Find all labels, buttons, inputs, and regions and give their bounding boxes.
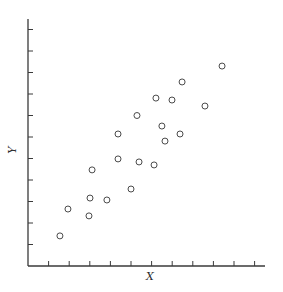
data-points: [57, 63, 225, 239]
data-point: [87, 195, 93, 201]
scatter-plot: X Y: [0, 0, 283, 292]
data-point: [104, 197, 110, 203]
data-point: [89, 167, 95, 173]
data-point: [115, 131, 121, 137]
data-point: [151, 162, 157, 168]
data-point: [179, 79, 185, 85]
data-point: [159, 123, 165, 129]
y-ticks: [28, 30, 33, 245]
data-point: [65, 206, 71, 212]
data-point: [219, 63, 225, 69]
x-ticks: [49, 261, 255, 266]
data-point: [162, 138, 168, 144]
y-axis-label: Y: [6, 145, 19, 154]
data-point: [115, 156, 121, 162]
data-point: [177, 131, 183, 137]
data-point: [136, 159, 142, 165]
data-point: [169, 97, 175, 103]
data-point: [57, 233, 63, 239]
x-axis-label: X: [145, 270, 155, 283]
data-point: [86, 213, 92, 219]
data-point: [153, 95, 159, 101]
data-point: [202, 103, 208, 109]
data-point: [134, 113, 140, 119]
data-point: [128, 186, 134, 192]
